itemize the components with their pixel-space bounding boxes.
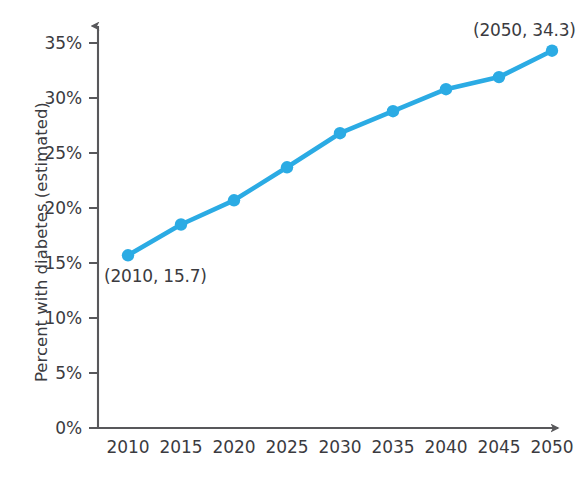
- x-tick-label-2010: 2010: [107, 437, 150, 457]
- y-tick-label-15: 15%: [34, 253, 82, 273]
- x-tick-label-2035: 2035: [372, 437, 415, 457]
- y-tick-label-35: 35%: [34, 33, 82, 53]
- data-line: [128, 51, 552, 256]
- data-point: [546, 45, 558, 57]
- x-tick-label-2020: 2020: [213, 437, 256, 457]
- y-tick-label-20: 20%: [34, 198, 82, 218]
- y-tick-label-10: 10%: [34, 308, 82, 328]
- x-tick-label-2050: 2050: [531, 437, 574, 457]
- y-tick-label-5: 5%: [34, 363, 82, 383]
- x-tick-label-2040: 2040: [425, 437, 468, 457]
- y-tick-label-0: 0%: [34, 418, 82, 438]
- y-axis-ticks: [89, 43, 98, 428]
- x-tick-label-2015: 2015: [160, 437, 203, 457]
- data-point: [440, 83, 452, 95]
- data-point: [175, 218, 187, 230]
- x-tick-label-2030: 2030: [319, 437, 362, 457]
- y-tick-label-25: 25%: [34, 143, 82, 163]
- x-tick-label-2025: 2025: [266, 437, 309, 457]
- data-point: [228, 194, 240, 206]
- data-point: [122, 249, 134, 261]
- data-point: [281, 161, 293, 173]
- data-point: [387, 105, 399, 117]
- x-tick-label-2045: 2045: [478, 437, 521, 457]
- data-point: [334, 127, 346, 139]
- annotation-last-point: (2050, 34.3): [473, 20, 576, 40]
- y-tick-label-30: 30%: [34, 88, 82, 108]
- annotation-first-point: (2010, 15.7): [104, 266, 207, 286]
- data-point: [493, 71, 505, 83]
